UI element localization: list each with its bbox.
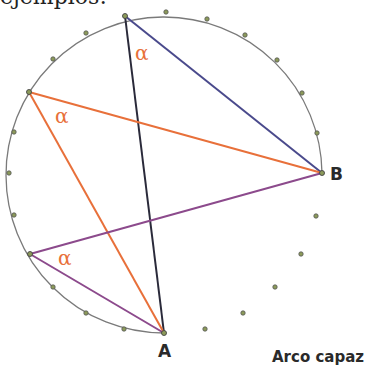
purple-chord-b: [30, 173, 322, 254]
arc-dots: [7, 10, 319, 331]
alpha-label-top: α: [135, 41, 149, 65]
arco-capaz-diagram: α α α B A Arco capaz: [0, 0, 371, 371]
orange-chord-b: [29, 92, 322, 173]
vertex-points: [27, 14, 325, 336]
alpha-label-middle: α: [55, 104, 69, 128]
point-p1: [123, 14, 128, 19]
purple-chord-a: [30, 254, 164, 333]
point-b: [320, 171, 325, 176]
label-a: A: [158, 341, 172, 361]
caption: Arco capaz: [272, 348, 364, 366]
label-b: B: [330, 164, 343, 184]
point-p2: [27, 90, 32, 95]
blue-chord: [125, 16, 322, 173]
orange-chord-a: [29, 92, 164, 333]
lower-dots: [203, 214, 318, 331]
alpha-label-bottom: α: [58, 246, 72, 270]
point-p3: [28, 252, 33, 257]
point-a: [162, 331, 167, 336]
